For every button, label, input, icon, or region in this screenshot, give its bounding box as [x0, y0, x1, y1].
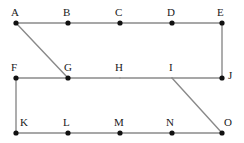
vertex-dot-c [117, 20, 122, 25]
vertex-dot-b [65, 20, 70, 25]
diagram-canvas: ABCDEFGHIJKLMNO [0, 0, 244, 143]
vertex-label-d: D [167, 7, 175, 18]
vertex-dot-n [169, 130, 174, 135]
vertex-dot-j [219, 75, 224, 80]
vertex-dot-k [13, 130, 18, 135]
vertex-dot-d [169, 20, 174, 25]
vertex-label-o: O [224, 117, 232, 128]
vertex-label-b: B [63, 7, 70, 18]
edge-i-o [172, 78, 222, 133]
vertex-label-h: H [115, 62, 123, 73]
vertex-label-l: L [63, 117, 70, 128]
vertex-label-e: E [217, 7, 224, 18]
vertex-label-m: M [114, 117, 124, 128]
vertex-dot-a [13, 20, 18, 25]
vertex-dot-m [117, 130, 122, 135]
vertex-label-k: K [20, 117, 28, 128]
vertex-label-n: N [166, 117, 174, 128]
vertex-label-a: A [11, 7, 19, 18]
vertex-label-j: J [228, 70, 232, 81]
vertex-dot-l [65, 130, 70, 135]
vertex-dot-o [219, 130, 224, 135]
vertex-dot-e [219, 20, 224, 25]
vertex-dot-f [13, 75, 18, 80]
vertex-label-g: G [64, 62, 72, 73]
vertex-label-f: F [11, 62, 17, 73]
vertex-label-i: I [169, 62, 173, 73]
edge-a-g [16, 23, 68, 78]
vertex-dot-g [65, 75, 70, 80]
vertex-label-c: C [115, 7, 122, 18]
